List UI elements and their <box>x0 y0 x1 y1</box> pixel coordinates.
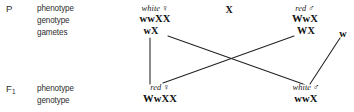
offspring-right-phenotype-label: white <box>292 83 311 92</box>
offspring-left-sex-symbol: ♀ <box>161 82 169 92</box>
connector-diagonal-left-to-right <box>168 36 303 84</box>
connector-diagonal-right-to-left <box>163 36 294 83</box>
parent-right-gamete-w: w <box>339 28 347 39</box>
offspring-right-phenotype: white♂ <box>292 82 319 92</box>
parent-right-phenotype: red♂ <box>295 3 315 13</box>
row-label-phenotype-p: phenotype <box>37 3 74 13</box>
generation-marker-p: P <box>6 3 13 14</box>
parent-right-genotype: WwX <box>292 13 318 24</box>
generation-marker-f1-subscript: 1 <box>12 88 16 95</box>
parent-right-sex-symbol: ♂ <box>306 3 314 13</box>
offspring-right-genotype: wwX <box>294 93 317 104</box>
row-label-genotype-p: genotype <box>37 15 69 25</box>
offspring-left-genotype: WwXX <box>143 93 177 104</box>
connector-w-gamete-to-offspring <box>310 38 340 84</box>
parent-right-phenotype-label: red <box>295 4 306 13</box>
row-label-gametes-p: gametes <box>37 27 67 37</box>
row-label-genotype-f1: genotype <box>37 95 69 105</box>
offspring-right-sex-symbol: ♂ <box>311 82 319 92</box>
parent-left-phenotype: white♀ <box>141 3 168 13</box>
genetics-cross-diagram: P phenotype genotype gametes white♀ wwXX… <box>0 0 354 112</box>
row-label-phenotype-f1: phenotype <box>37 83 74 93</box>
generation-marker-p-label: P <box>6 3 13 14</box>
parent-left-phenotype-label: white <box>141 4 160 13</box>
parent-left-gamete-wx: wX <box>143 25 158 36</box>
cross-operator: X <box>225 4 232 15</box>
parent-right-gamete-wx: WX <box>297 25 315 36</box>
parent-left-genotype: wwXX <box>139 13 170 24</box>
offspring-left-phenotype-label: red <box>150 83 161 92</box>
generation-marker-f1: F1 <box>6 83 16 94</box>
offspring-left-phenotype: red♀ <box>150 82 170 92</box>
parent-left-sex-symbol: ♀ <box>160 3 168 13</box>
